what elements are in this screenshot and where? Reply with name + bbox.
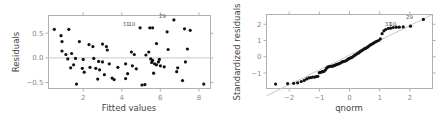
data-point — [172, 18, 175, 21]
y-tick-label: 0.0 — [32, 54, 43, 62]
data-point — [97, 60, 100, 63]
data-point — [166, 30, 169, 33]
data-point — [101, 43, 104, 46]
y-tick-label: 2 — [257, 21, 261, 29]
y-axis-label: Residuals — [11, 31, 21, 72]
data-point — [300, 80, 303, 83]
y-tick-label: 0.5 — [32, 30, 43, 38]
data-point — [83, 71, 86, 74]
data-point — [96, 78, 99, 81]
data-point — [88, 66, 91, 69]
x-tick-label: 6 — [158, 94, 163, 102]
data-point — [69, 66, 72, 69]
data-point — [159, 64, 162, 67]
data-point — [98, 68, 101, 71]
data-point — [94, 67, 97, 70]
data-point — [101, 60, 104, 63]
data-point — [59, 34, 62, 37]
data-point — [131, 64, 134, 67]
chart-canvas: 2468−0.50.00.5 311029 Fitted values Resi… — [0, 0, 443, 121]
x-tick-label: 8 — [197, 94, 201, 102]
normal-qq-plot: −2−1012−1012 311029 qnorm Standardized r… — [232, 3, 436, 113]
data-point — [60, 49, 63, 52]
x-axis-label: Fitted values — [102, 103, 157, 113]
y-tick-label: −0.5 — [27, 79, 44, 87]
x-tick-label: 4 — [120, 94, 125, 102]
point-id-label: 10 — [128, 21, 135, 27]
x-tick-label: −2 — [284, 94, 294, 102]
data-point — [66, 57, 69, 60]
point-id-label: 10 — [389, 21, 396, 27]
data-point — [81, 67, 84, 70]
y-tick-label: 1 — [257, 37, 261, 45]
x-tick-label: 1 — [377, 94, 381, 102]
data-point — [296, 81, 299, 84]
data-point — [167, 48, 170, 51]
y-axis-label: Standardized residuals — [232, 3, 242, 100]
data-point — [140, 83, 143, 86]
data-point — [147, 50, 150, 53]
data-point — [133, 53, 136, 56]
data-point — [106, 48, 109, 51]
data-point — [163, 65, 166, 68]
data-point — [186, 47, 189, 50]
data-point — [108, 62, 111, 65]
data-point — [158, 58, 161, 61]
data-point — [74, 57, 77, 60]
data-point — [116, 66, 119, 69]
data-point — [126, 72, 129, 75]
data-point — [292, 82, 295, 85]
data-point — [143, 83, 146, 86]
data-point — [53, 28, 56, 31]
data-points — [49, 18, 211, 86]
data-point — [155, 42, 158, 45]
data-point — [379, 37, 382, 40]
x-tick-label: −1 — [314, 94, 324, 102]
data-point — [144, 53, 147, 56]
data-point — [113, 78, 116, 81]
point-annotations: 311029 — [385, 14, 414, 27]
data-point — [183, 27, 186, 30]
data-point — [184, 60, 187, 63]
data-point — [422, 18, 425, 21]
data-point — [124, 62, 127, 65]
x-tick-label: 2 — [81, 94, 85, 102]
data-points — [267, 15, 433, 96]
qq-reference-line — [267, 15, 433, 96]
data-point — [124, 77, 127, 80]
plot-frame — [267, 15, 433, 89]
data-point — [92, 57, 95, 60]
data-point — [105, 45, 108, 48]
data-point — [151, 26, 154, 29]
data-point — [274, 83, 277, 86]
data-point — [75, 83, 78, 86]
data-point — [91, 45, 94, 48]
data-point — [398, 26, 401, 29]
data-point — [202, 83, 205, 86]
data-point — [139, 26, 142, 29]
data-point — [175, 70, 178, 73]
data-point — [381, 32, 384, 35]
y-tick-label: −1 — [251, 70, 261, 78]
x-axis-label: qnorm — [335, 103, 363, 113]
data-point — [135, 67, 138, 70]
data-point — [64, 53, 67, 56]
data-point — [181, 79, 184, 82]
y-tick-label: 0 — [257, 53, 261, 61]
data-point — [409, 25, 412, 28]
data-point — [82, 58, 85, 61]
data-point — [67, 28, 70, 31]
data-point — [148, 26, 151, 29]
point-id-label: 29 — [159, 13, 166, 19]
data-point — [130, 50, 133, 53]
data-point — [72, 63, 75, 66]
data-point — [155, 63, 158, 66]
data-point — [60, 40, 63, 43]
x-tick-label: 2 — [408, 94, 412, 102]
data-point — [176, 66, 179, 69]
data-point — [189, 29, 192, 32]
data-point — [402, 25, 405, 28]
data-point — [316, 75, 319, 78]
data-point — [152, 72, 155, 75]
point-id-label: 29 — [406, 14, 413, 20]
